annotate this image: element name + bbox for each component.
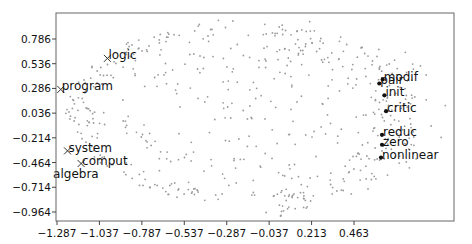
data-point [420, 65, 422, 67]
data-point [228, 140, 230, 142]
data-point [96, 137, 98, 139]
y-tick-label: 0.286 [21, 82, 51, 94]
data-point [278, 26, 280, 28]
data-point [92, 113, 94, 115]
data-point [197, 25, 199, 27]
data-point [265, 212, 267, 214]
data-point [149, 133, 151, 135]
data-point [373, 127, 375, 129]
data-point [225, 140, 227, 142]
data-point [178, 159, 180, 161]
data-point [143, 171, 145, 173]
data-point [302, 50, 304, 52]
data-point [74, 117, 76, 119]
data-point [126, 132, 128, 134]
data-point [371, 173, 373, 175]
data-point [145, 140, 147, 142]
data-point [159, 54, 161, 56]
data-point [264, 118, 266, 120]
y-tick-label: −0.964 [12, 206, 51, 218]
data-point [183, 193, 185, 195]
data-point [140, 136, 142, 138]
data-point [143, 124, 145, 126]
data-point [411, 97, 413, 99]
data-point [274, 35, 276, 37]
data-point [405, 98, 407, 100]
data-point [365, 76, 367, 78]
data-point [81, 98, 83, 100]
data-point [319, 48, 321, 50]
data-point [127, 115, 129, 117]
data-point [78, 97, 80, 99]
data-point [260, 95, 262, 97]
data-point [128, 46, 130, 48]
data-point [80, 132, 82, 134]
data-point [352, 64, 354, 66]
y-tick-label: 0.036 [21, 107, 51, 119]
data-point [249, 57, 251, 59]
data-point [301, 29, 303, 31]
data-point [331, 79, 333, 81]
data-point [282, 34, 284, 36]
data-point [224, 177, 226, 179]
data-point [194, 30, 196, 32]
data-point [301, 64, 303, 66]
data-point [202, 38, 204, 40]
data-point [291, 195, 293, 197]
data-point [276, 32, 278, 34]
data-point [266, 46, 268, 48]
data-point [230, 117, 232, 119]
data-point [123, 171, 125, 173]
data-point [374, 113, 376, 115]
data-point [110, 74, 112, 76]
data-point [291, 86, 293, 88]
data-point [337, 135, 339, 137]
data-point [149, 187, 151, 189]
data-point [379, 66, 381, 68]
data-point [175, 89, 177, 91]
data-point [163, 74, 165, 76]
data-point [404, 51, 406, 53]
data-point [146, 147, 148, 149]
data-point [142, 134, 144, 136]
data-point [242, 110, 244, 112]
data-point [320, 126, 322, 128]
data-point [197, 98, 199, 100]
data-point [150, 145, 152, 147]
data-point [360, 47, 362, 49]
data-point [112, 77, 114, 79]
data-point [189, 87, 191, 89]
data-point [305, 46, 307, 48]
point-label-init: init [385, 85, 404, 99]
data-point [125, 174, 127, 176]
data-point [290, 109, 292, 111]
data-point [122, 66, 124, 68]
data-point [352, 87, 354, 89]
data-point [223, 58, 225, 60]
data-point [103, 75, 105, 77]
data-point [303, 207, 305, 209]
data-point [211, 165, 213, 167]
x-tick-label: −0.537 [165, 227, 204, 239]
data-point [305, 134, 307, 136]
data-point [303, 192, 305, 194]
data-point [279, 204, 281, 206]
data-point [158, 39, 160, 41]
data-point [165, 63, 167, 65]
data-point [173, 34, 175, 36]
data-point [281, 24, 283, 26]
data-point [193, 151, 195, 153]
data-point [142, 185, 144, 187]
data-point [325, 133, 327, 135]
data-point [275, 106, 277, 108]
data-point [159, 170, 161, 172]
data-point [360, 169, 362, 171]
data-point [320, 38, 322, 40]
data-point [88, 121, 90, 123]
data-point [253, 82, 255, 84]
data-point [328, 61, 330, 63]
point-label-comput: comput [82, 154, 128, 168]
data-point [425, 99, 427, 101]
data-point [290, 76, 292, 78]
data-point [280, 191, 282, 193]
